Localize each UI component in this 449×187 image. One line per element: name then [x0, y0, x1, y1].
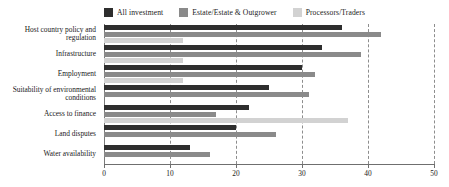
y-axis-labels: Host country policy and regulationInfras… [0, 24, 100, 164]
x-axis-tick [368, 164, 369, 168]
bar[interactable] [104, 92, 309, 97]
y-axis-tick-label: Land disputes [0, 130, 96, 138]
x-axis-tick-label: 20 [232, 169, 239, 178]
legend-item-label: All investment [117, 8, 163, 17]
bar[interactable] [104, 38, 183, 43]
x-axis-tick-label: 30 [298, 169, 305, 178]
y-axis-tick-label: Suitability of environmental conditions [0, 86, 96, 103]
bar[interactable] [104, 72, 315, 77]
bar-chart: All investmentEstate/Estate & OutgrowerP… [0, 0, 449, 187]
x-axis-tick-label: 0 [102, 169, 106, 178]
legend-swatch-icon [104, 8, 113, 17]
legend-item[interactable]: Processors/Traders [293, 8, 365, 17]
bar-group [104, 44, 434, 64]
bar[interactable] [104, 25, 342, 30]
x-axis-tick [434, 164, 435, 168]
bar-group [104, 64, 434, 84]
legend-item-label: Processors/Traders [306, 8, 365, 17]
bar[interactable] [104, 78, 183, 83]
x-axis-tick [170, 164, 171, 168]
bar[interactable] [104, 58, 183, 63]
bar[interactable] [104, 45, 322, 50]
chart-legend: All investmentEstate/Estate & OutgrowerP… [104, 5, 444, 19]
bar-group [104, 24, 434, 44]
legend-item[interactable]: All investment [104, 8, 163, 17]
y-axis-tick-label: Host country policy and regulation [0, 26, 96, 43]
bar[interactable] [104, 112, 216, 117]
bar[interactable] [104, 152, 210, 157]
bar[interactable] [104, 85, 269, 90]
bar[interactable] [104, 132, 276, 137]
bar-group [104, 144, 434, 164]
bar[interactable] [104, 145, 190, 150]
legend-item-label: Estate/Estate & Outgrower [192, 8, 276, 17]
bar[interactable] [104, 105, 249, 110]
x-axis-tick-label: 10 [166, 169, 173, 178]
x-axis-tick-label: 40 [364, 169, 371, 178]
plot-area [104, 24, 434, 164]
legend-swatch-icon [179, 8, 188, 17]
x-axis-tick [302, 164, 303, 168]
y-axis-tick-label: Access to finance [0, 110, 96, 118]
legend-item[interactable]: Estate/Estate & Outgrower [179, 8, 276, 17]
bar[interactable] [104, 65, 302, 70]
y-axis-tick-label: Water availability [0, 150, 96, 158]
x-axis-tick [104, 164, 105, 168]
y-axis-tick-label: Employment [0, 70, 96, 78]
x-axis-tick [236, 164, 237, 168]
bar[interactable] [104, 32, 381, 37]
x-axis-line [104, 164, 434, 165]
bar[interactable] [104, 52, 361, 57]
y-axis-tick-label: Infrastructure [0, 50, 96, 58]
bar[interactable] [104, 125, 236, 130]
bar-group [104, 104, 434, 124]
bar[interactable] [104, 118, 348, 123]
legend-swatch-icon [293, 8, 302, 17]
gridline [434, 24, 435, 164]
bar-group [104, 84, 434, 104]
bar-group [104, 124, 434, 144]
x-axis-tick-label: 50 [430, 169, 437, 178]
